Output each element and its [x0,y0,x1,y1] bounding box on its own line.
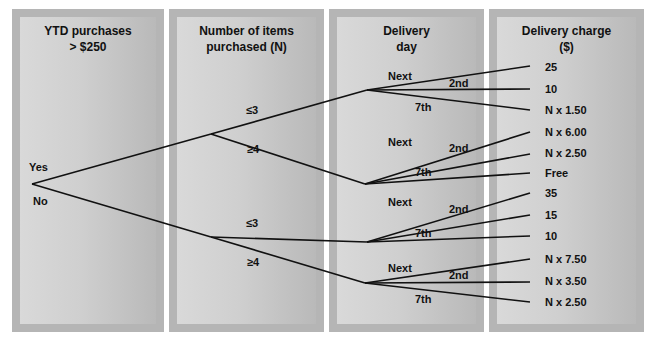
branch-label-yes-ge4: ≥4 [247,143,259,155]
delivery-label-7th: 7th [415,101,432,113]
branch-label-yes: Yes [29,161,48,173]
delivery-label-2nd: 2nd [449,203,469,215]
charge-value: 25 [545,61,557,73]
delivery-label-2nd: 2nd [449,142,469,154]
charge-value: N x 2.50 [545,296,587,308]
charge-value: N x 6.00 [545,126,587,138]
branch-label-no: No [33,195,48,207]
delivery-label-next: Next [388,136,412,148]
delivery-label-2nd: 2nd [449,77,469,89]
branch-label-no-ge4: ≥4 [247,256,259,268]
delivery-label-7th: 7th [415,166,432,178]
charge-value: N x 7.50 [545,253,587,265]
charge-value: 35 [545,187,557,199]
charge-value: Free [545,167,568,179]
branch-label-no-le3: ≤3 [246,217,258,229]
delivery-label-2nd: 2nd [449,269,469,281]
delivery-label-next: Next [388,196,412,208]
charge-value: 10 [545,83,557,95]
charge-value: N x 1.50 [545,104,587,116]
branch-label-yes-le3: ≤3 [246,104,258,116]
charge-value: 10 [545,230,557,242]
charge-value: N x 3.50 [545,275,587,287]
charge-value: 15 [545,209,557,221]
delivery-label-next: Next [388,262,412,274]
delivery-label-next: Next [388,70,412,82]
delivery-label-7th: 7th [415,227,432,239]
delivery-label-7th: 7th [415,293,432,305]
charge-value: N x 2.50 [545,147,587,159]
